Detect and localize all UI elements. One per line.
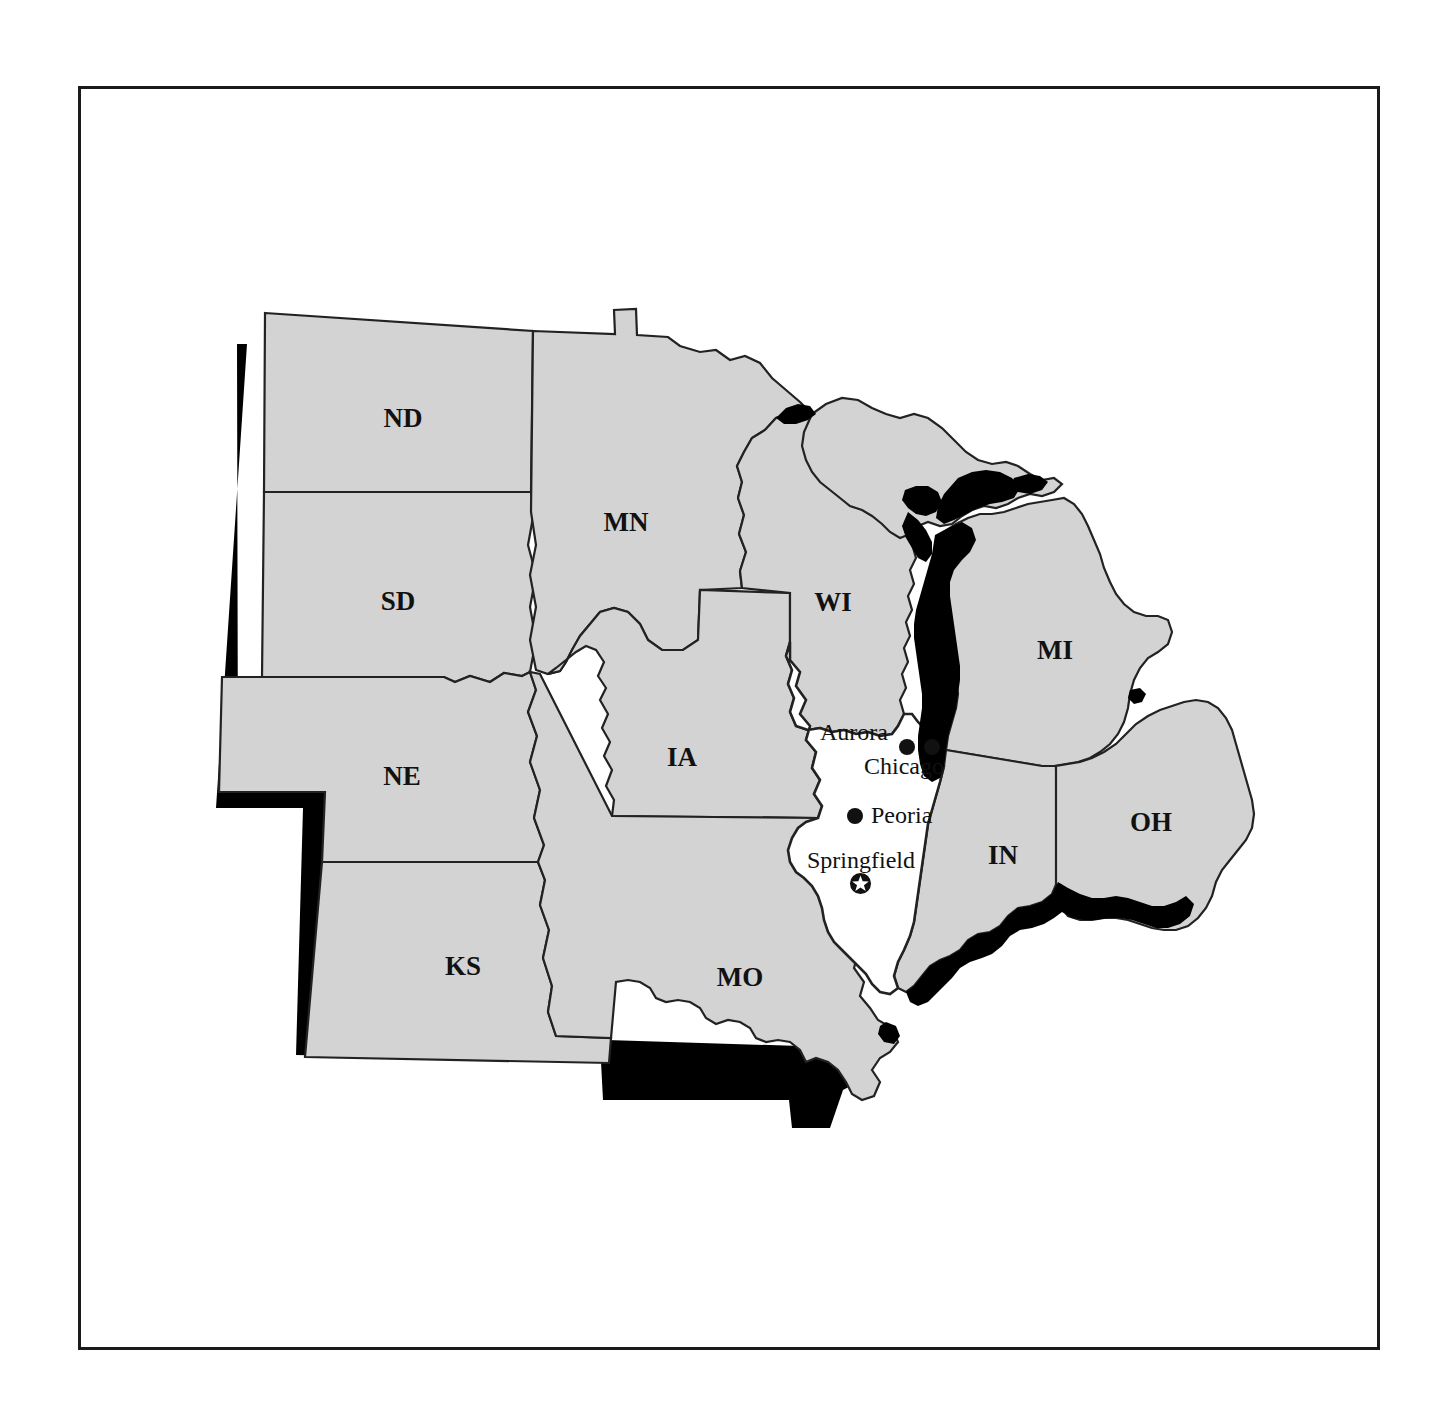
map-figure: ND SD NE KS MN IA MO WI MI IN OH Aurora … bbox=[0, 0, 1451, 1424]
city-label-chicago: Chicago bbox=[864, 753, 944, 779]
state-label-nd: ND bbox=[384, 403, 423, 433]
state-label-sd: SD bbox=[381, 586, 416, 616]
capital-star-icon bbox=[850, 873, 871, 894]
city-dot-peoria bbox=[847, 808, 863, 824]
state-label-oh: OH bbox=[1130, 807, 1172, 837]
state-label-ks: KS bbox=[445, 951, 481, 981]
state-label-ne: NE bbox=[383, 761, 421, 791]
city-label-aurora: Aurora bbox=[820, 719, 888, 745]
state-label-ia: IA bbox=[667, 742, 698, 772]
city-label-peoria: Peoria bbox=[871, 802, 933, 828]
state-shape-ne bbox=[219, 672, 544, 862]
city-label-springfield: Springfield bbox=[807, 847, 915, 873]
saginaw-bay-mark bbox=[1128, 688, 1146, 704]
state-label-in: IN bbox=[988, 840, 1019, 870]
state-label-mn: MN bbox=[604, 507, 649, 537]
midwest-map-svg: ND SD NE KS MN IA MO WI MI IN OH Aurora … bbox=[0, 0, 1451, 1424]
state-label-wi: WI bbox=[814, 587, 852, 617]
state-label-mi: MI bbox=[1037, 635, 1073, 665]
state-label-mo: MO bbox=[717, 962, 764, 992]
